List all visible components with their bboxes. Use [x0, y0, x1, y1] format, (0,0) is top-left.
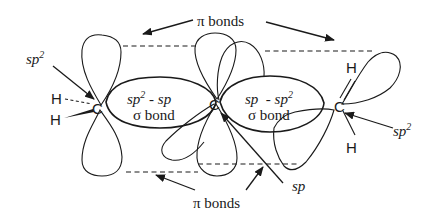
atom-h-left-top: H: [51, 90, 62, 107]
pi-bond-arrows: [143, 20, 334, 190]
label-left-sp2: sp2: [26, 49, 44, 67]
allene-orbital-diagram: C C C H H H H π bonds π bonds sp2 - sp σ…: [0, 0, 438, 217]
atom-c-right: C: [334, 98, 345, 115]
hybrid-arrows: [53, 66, 393, 183]
atom-h-left-bottom: H: [50, 111, 61, 128]
label-sigma-left-bond: σ bond: [133, 107, 175, 123]
label-pi-bonds-top: π bonds: [197, 13, 244, 29]
label-right-sp2: sp2: [393, 121, 411, 139]
label-pi-bonds-bottom: π bonds: [193, 195, 240, 211]
atom-h-right-top: H: [346, 59, 357, 76]
atom-c-left: C: [92, 100, 103, 117]
atom-h-right-bottom: H: [346, 139, 357, 156]
label-sigma-left-hybrids: sp2 - sp: [127, 89, 172, 107]
label-center-sp: sp: [292, 178, 306, 194]
label-sigma-right-bond: σ bond: [248, 107, 290, 123]
atom-c-center: C: [209, 96, 220, 113]
label-sigma-right-hybrids: sp - sp2: [245, 89, 293, 107]
